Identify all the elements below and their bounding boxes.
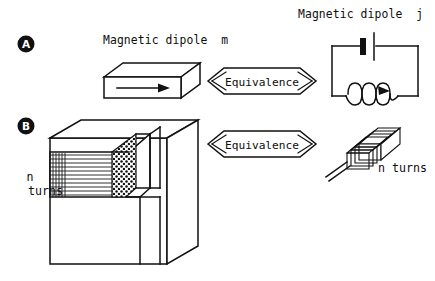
wound-magnetic-core-cutaway-icon <box>50 120 198 264</box>
coil-loop-2 <box>362 83 376 105</box>
coil-tail <box>390 94 398 100</box>
panel-a-badge: A <box>18 36 35 53</box>
n-turns-left-line1: n <box>27 170 34 184</box>
battery-negative-plate <box>360 38 366 55</box>
equivalence-arrow-bottom: Equivalence <box>208 131 316 157</box>
equivalence-arrow-top: Equivalence <box>208 68 316 94</box>
battery-symbol-icon <box>360 33 374 60</box>
inductor-coil-icon <box>346 83 398 105</box>
magnetic-dipole-equivalence-figure: Magnetic dipole j A Magnetic dipole m <box>0 0 435 281</box>
panel-b-letter: B <box>22 120 30 132</box>
dipole-m-label: Magnetic dipole m <box>103 33 228 47</box>
figure-root: Magnetic dipole j A Magnetic dipole m <box>0 0 435 281</box>
battery-circuit-loop-icon <box>332 33 418 105</box>
core-right-face <box>167 120 198 264</box>
coil-loop-1 <box>346 83 362 105</box>
equivalence-label-bottom: Equivalence <box>225 139 299 152</box>
dipole-j-label: Magnetic dipole j <box>298 7 423 21</box>
bar-magnet-3d-icon <box>104 63 200 98</box>
current-direction-arrow <box>378 86 390 95</box>
n-turns-right-label: n turns <box>378 161 427 175</box>
panel-b-badge: B <box>18 118 35 135</box>
coil-lead-wires <box>326 162 350 181</box>
equivalence-label-top: Equivalence <box>225 76 299 89</box>
panel-a-letter: A <box>22 38 31 50</box>
n-turns-left-line2: turns <box>28 184 63 198</box>
